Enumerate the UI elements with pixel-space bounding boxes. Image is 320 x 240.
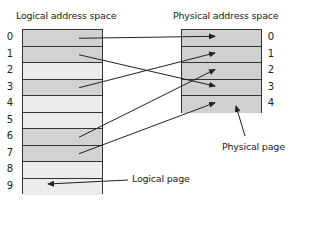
logical-page-pointer (48, 180, 128, 184)
physical-page-label: Physical page (222, 141, 285, 152)
mapping-arrow (79, 53, 215, 88)
mapping-arrow (79, 36, 215, 38)
logical-page-label: Logical page (132, 173, 190, 184)
mapping-arrow (79, 103, 215, 154)
physical-page-pointer (236, 106, 245, 136)
mapping-arrow (79, 70, 215, 138)
